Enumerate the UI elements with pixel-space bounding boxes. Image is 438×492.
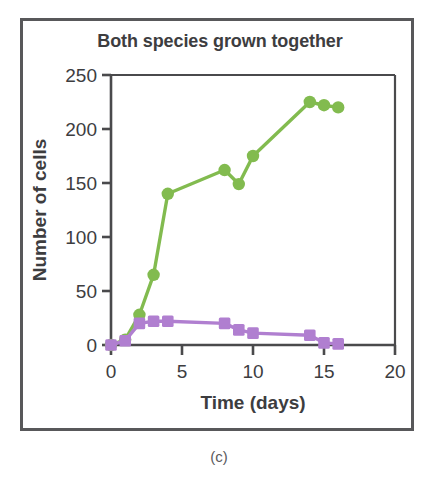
x-tick-label: 10 (242, 361, 263, 382)
data-point-purple-species (219, 318, 231, 330)
chart-plot: 05010015020025005101520Time (days)Number… (0, 0, 438, 492)
data-point-purple-species (134, 318, 146, 330)
data-point-green-species (162, 188, 174, 200)
series-group (105, 96, 345, 351)
x-tick-label: 20 (384, 361, 405, 382)
y-tick-label: 50 (76, 281, 97, 302)
data-point-purple-species (162, 315, 174, 327)
data-point-purple-species (318, 337, 330, 349)
figure-panel: Both species grown together 050100150200… (0, 0, 438, 492)
data-point-green-species (218, 164, 230, 176)
data-point-purple-species (119, 335, 131, 347)
data-point-purple-species (247, 327, 259, 339)
data-point-green-species (247, 150, 259, 162)
axes-group (102, 75, 395, 355)
data-point-purple-species (148, 315, 160, 327)
y-axis-title: Number of cells (29, 139, 50, 282)
data-point-green-species (304, 96, 316, 108)
data-point-green-species (318, 99, 330, 111)
x-axis-title: Time (days) (200, 392, 305, 413)
series-line-green-species (111, 102, 338, 345)
y-tick-label: 200 (65, 119, 97, 140)
data-point-purple-species (105, 339, 117, 351)
data-point-green-species (233, 178, 245, 190)
x-tick-label: 5 (177, 361, 188, 382)
figure-caption: (c) (0, 448, 438, 465)
data-point-purple-species (332, 338, 344, 350)
data-point-green-species (147, 269, 159, 281)
y-tick-label: 0 (86, 335, 97, 356)
y-tick-label: 150 (65, 173, 97, 194)
data-point-green-species (332, 101, 344, 113)
axis-labels-group: 05010015020025005101520Time (days)Number… (29, 65, 406, 413)
data-point-purple-species (304, 329, 316, 341)
x-tick-label: 0 (106, 361, 117, 382)
y-tick-label: 250 (65, 65, 97, 86)
data-point-purple-species (233, 324, 245, 336)
y-tick-label: 100 (65, 227, 97, 248)
x-tick-label: 15 (313, 361, 334, 382)
